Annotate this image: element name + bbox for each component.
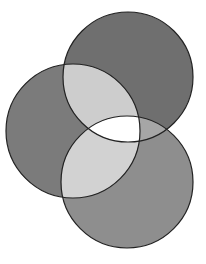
venn-diagram — [0, 0, 206, 264]
